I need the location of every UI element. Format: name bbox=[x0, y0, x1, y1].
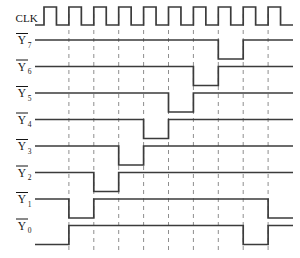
waveform-y5 bbox=[35, 93, 293, 112]
timing-diagram: CLKY7Y6Y5Y4Y3Y2Y1Y0 bbox=[0, 0, 300, 258]
signal-subscript-y2: 2 bbox=[28, 173, 32, 182]
signal-subscript-y5: 5 bbox=[28, 94, 32, 103]
signal-label-y2: Y bbox=[18, 167, 27, 179]
waveform-y2 bbox=[35, 173, 293, 192]
waveforms bbox=[35, 7, 293, 245]
signal-label-y1: Y bbox=[18, 193, 27, 205]
clk-label: CLK bbox=[15, 12, 38, 24]
waveform-y4 bbox=[35, 120, 293, 139]
signal-labels: CLKY7Y6Y5Y4Y3Y2Y1Y0 bbox=[15, 12, 38, 235]
clk-waveform bbox=[35, 7, 293, 25]
waveform-y3 bbox=[35, 146, 293, 165]
waveform-y7 bbox=[35, 40, 293, 59]
signal-label-y5: Y bbox=[18, 87, 27, 99]
waveform-y1 bbox=[35, 199, 293, 218]
waveform-y6 bbox=[35, 67, 293, 86]
signal-label-y7: Y bbox=[18, 34, 27, 46]
signal-label-y0: Y bbox=[18, 220, 27, 232]
signal-subscript-y3: 3 bbox=[28, 147, 32, 156]
signal-subscript-y4: 4 bbox=[28, 120, 32, 129]
timing-diagram-canvas: CLKY7Y6Y5Y4Y3Y2Y1Y0 bbox=[0, 0, 300, 258]
signal-label-y6: Y bbox=[18, 61, 27, 73]
signal-subscript-y1: 1 bbox=[28, 200, 32, 209]
signal-label-y4: Y bbox=[18, 114, 27, 126]
signal-subscript-y7: 7 bbox=[28, 41, 32, 50]
signal-subscript-y0: 0 bbox=[28, 226, 32, 235]
waveform-y0 bbox=[35, 226, 293, 245]
signal-subscript-y6: 6 bbox=[28, 67, 32, 76]
signal-label-y3: Y bbox=[18, 140, 27, 152]
